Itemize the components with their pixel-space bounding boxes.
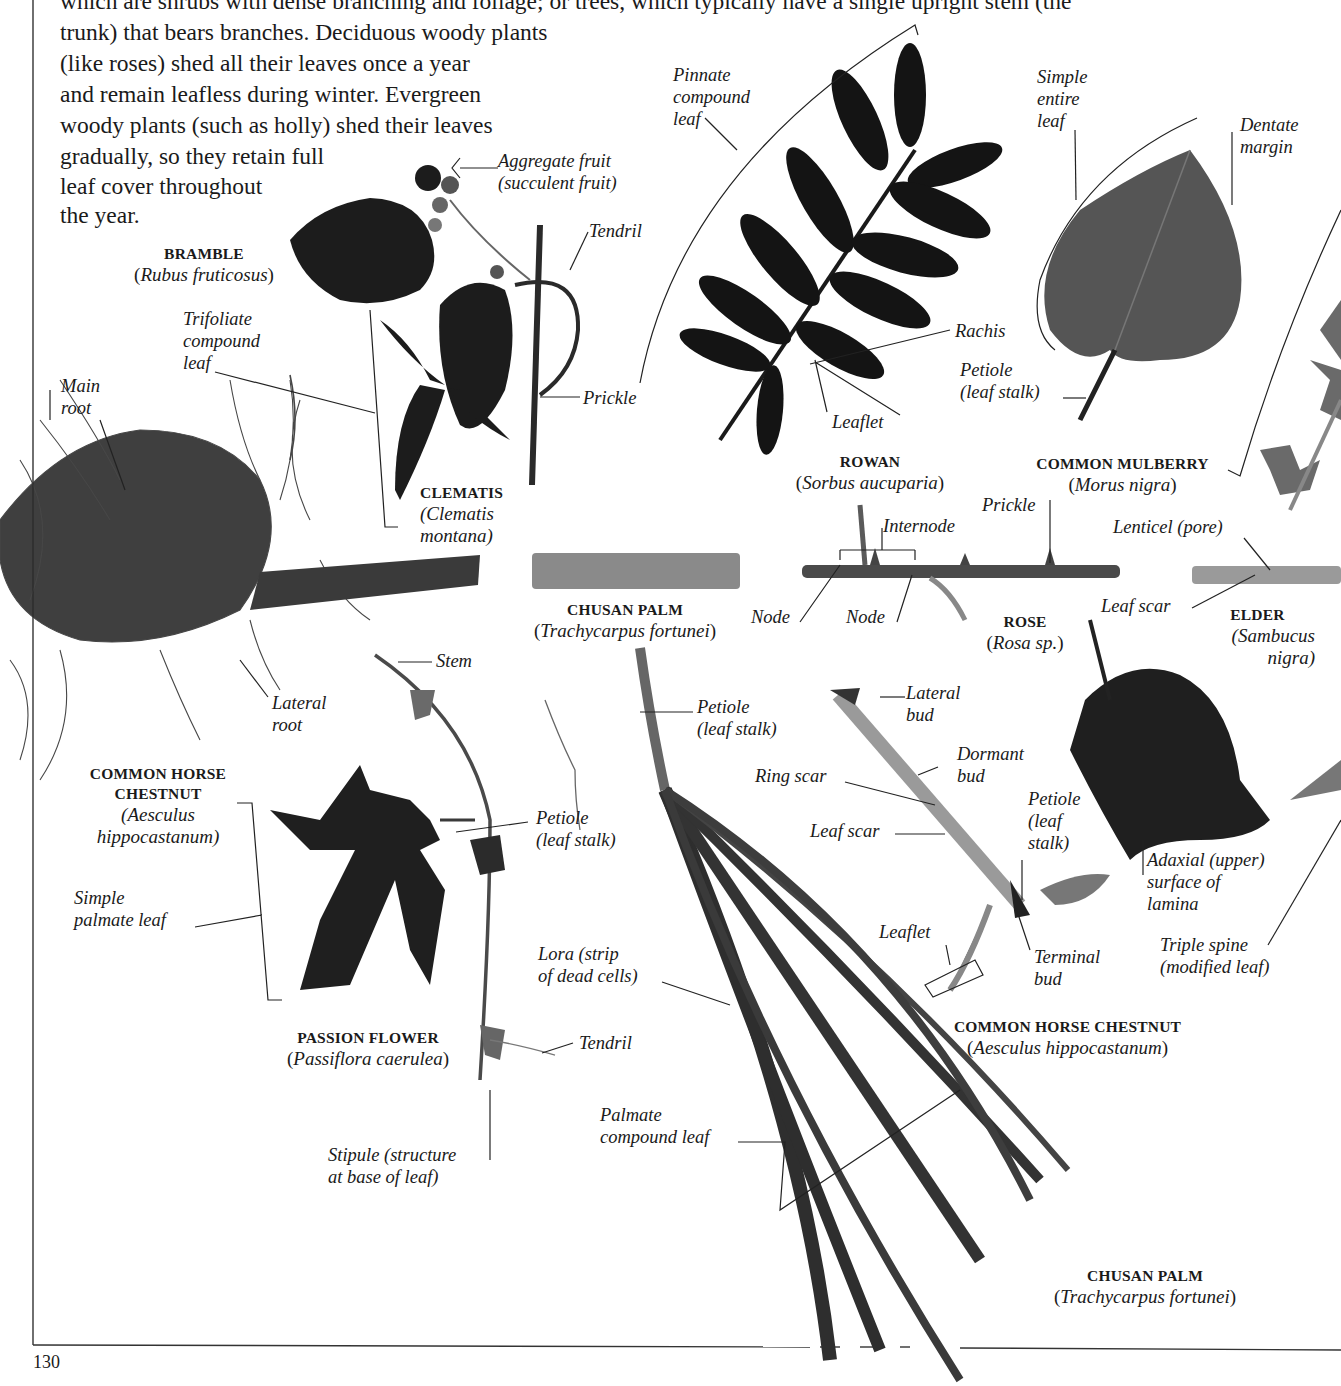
label-lateral-root: Lateralroot	[272, 692, 326, 736]
caption-horse-chestnut-twig: COMMON HORSE CHESTNUT (Aesculus hippocas…	[940, 1017, 1195, 1059]
label-simple-entire-leaf: Simpleentireleaf	[1037, 66, 1087, 132]
latin-name: (Trachycarpus fortunei)	[510, 620, 740, 642]
label-prickle-rose: Prickle	[982, 494, 1035, 516]
label-aggregate-fruit: Aggregate fruit(succulent fruit)	[498, 150, 617, 194]
latin-name: (Clematis	[420, 503, 503, 525]
common-name: CHUSAN PALM	[1030, 1266, 1260, 1286]
label-internode: Internode	[883, 515, 955, 537]
caption-horse-chestnut-root: COMMON HORSE CHESTNUT (Aesculus hippocas…	[78, 764, 238, 848]
intro-line: woody plants (such as holly) shed their …	[60, 110, 493, 141]
latin-name: (Sambucus	[1200, 625, 1315, 647]
root-stem	[250, 555, 480, 610]
latin-name: (Morus nigra)	[1025, 474, 1220, 496]
common-name: CHESTNUT	[78, 784, 238, 804]
intro-line: and remain leafless during winter. Everg…	[60, 79, 481, 110]
caption-bramble: BRAMBLE (Rubus fruticosus)	[118, 244, 290, 286]
common-name: ELDER	[1200, 605, 1315, 625]
label-leaf-scar-elder: Leaf scar	[1101, 595, 1170, 617]
latin-name: (Rosa sp.)	[970, 632, 1080, 654]
caption-elder: ELDER (Sambucus nigra)	[1200, 605, 1315, 669]
textbook-page: which are shrubs with dense branching an…	[0, 0, 1341, 1386]
intro-line: leaf cover throughout	[60, 171, 262, 202]
intro-line: trunk) that bears branches. Deciduous wo…	[60, 17, 548, 48]
label-rachis: Rachis	[955, 320, 1005, 342]
intro-line: the year.	[60, 200, 140, 231]
label-trifoliate-leaf: Trifoliatecompoundleaf	[183, 308, 260, 374]
common-name: CLEMATIS	[420, 483, 503, 503]
label-node-1: Node	[751, 606, 790, 628]
rose-stem	[802, 505, 1120, 620]
label-leaflet-rowan: Leaflet	[832, 411, 883, 433]
latin-name: (Sorbus aucuparia)	[770, 472, 970, 494]
holly-leaf	[1260, 300, 1341, 510]
label-lora: Lora (stripof dead cells)	[538, 943, 638, 987]
latin-name: (Rubus fruticosus)	[118, 264, 290, 286]
label-dormant-bud: Dormantbud	[957, 743, 1024, 787]
caption-clematis: CLEMATIS (Clematis montana)	[420, 483, 503, 547]
label-pinnate-leaf: Pinnatecompoundleaf	[673, 64, 750, 130]
caption-chusan-palm-leaf: CHUSAN PALM (Trachycarpus fortunei)	[1030, 1266, 1260, 1308]
intro-line: which are shrubs with dense branching an…	[60, 0, 1072, 17]
latin-name: nigra)	[1200, 647, 1315, 669]
label-stem: Stem	[436, 650, 472, 672]
caption-chusan-palm-stem: CHUSAN PALM (Trachycarpus fortunei)	[510, 600, 740, 642]
latin-name: (Aesculus hippocastanum)	[940, 1037, 1195, 1059]
label-tendril-bramble: Tendril	[589, 220, 642, 242]
label-petiole-mulberry: Petiole(leaf stalk)	[960, 359, 1040, 403]
adaxial-leaf	[1070, 669, 1270, 860]
common-name: CHUSAN PALM	[510, 600, 740, 620]
common-name: COMMON HORSE CHESTNUT	[940, 1017, 1195, 1037]
latin-name: hippocastanum)	[78, 826, 238, 848]
label-stipule: Stipule (structureat base of leaf)	[328, 1144, 456, 1188]
common-name: BRAMBLE	[118, 244, 290, 264]
intro-line: gradually, so they retain full	[60, 141, 324, 172]
latin-name: (Aesculus	[78, 804, 238, 826]
caption-rose: ROSE (Rosa sp.)	[970, 612, 1080, 654]
common-name: ROWAN	[770, 452, 970, 472]
caption-passion-flower: PASSION FLOWER (Passiflora caerulea)	[268, 1028, 468, 1070]
label-dentate-margin: Dentatemargin	[1240, 114, 1299, 158]
page-number: 130	[33, 1352, 60, 1373]
label-node-2: Node	[846, 606, 885, 628]
label-terminal-bud: Terminalbud	[1034, 946, 1100, 990]
common-name: COMMON MULBERRY	[1025, 454, 1220, 474]
caption-rowan: ROWAN (Sorbus aucuparia)	[770, 452, 970, 494]
palm-stem-section	[532, 553, 740, 589]
label-palmate-compound-leaf: Palmatecompound leaf	[600, 1104, 709, 1148]
label-main-root: Mainroot	[61, 375, 100, 419]
latin-name: (Passiflora caerulea)	[268, 1048, 468, 1070]
common-name: PASSION FLOWER	[268, 1028, 468, 1048]
caption-mulberry: COMMON MULBERRY (Morus nigra)	[1025, 454, 1220, 496]
mulberry-leaf	[1044, 150, 1241, 420]
common-name: ROSE	[970, 612, 1080, 632]
elder-stem	[1192, 566, 1341, 584]
label-prickle-bramble: Prickle	[583, 387, 636, 409]
holly-spine-leaf	[1290, 760, 1341, 800]
label-triple-spine: Triple spine(modified leaf)	[1160, 934, 1269, 978]
label-tendril-passion: Tendril	[579, 1032, 632, 1054]
label-simple-palmate-leaf: Simplepalmate leaf	[74, 887, 166, 931]
label-petiole-twig: Petiole(leafstalk)	[1028, 788, 1080, 854]
label-lenticel: Lenticel (pore)	[1113, 516, 1223, 538]
label-adaxial-surface: Adaxial (upper)surface oflamina	[1147, 849, 1265, 915]
bramble-specimen	[290, 165, 513, 500]
specimen-illustrations	[0, 0, 1341, 1386]
common-name: COMMON HORSE	[78, 764, 238, 784]
label-leaf-scar-twig: Leaf scar	[810, 820, 879, 842]
label-petiole-passion: Petiole(leaf stalk)	[536, 807, 616, 851]
intro-line: (like roses) shed all their leaves once …	[60, 48, 470, 79]
label-petiole-palm: Petiole(leaf stalk)	[697, 696, 777, 740]
latin-name: montana)	[420, 525, 503, 547]
label-ring-scar: Ring scar	[755, 765, 826, 787]
label-leaflet-twig: Leaflet	[879, 921, 930, 943]
label-lateral-bud: Lateralbud	[906, 682, 960, 726]
latin-name: (Trachycarpus fortunei)	[1030, 1286, 1260, 1308]
